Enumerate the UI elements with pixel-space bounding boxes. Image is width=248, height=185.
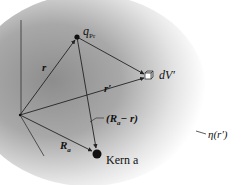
label-Ra: Ra: [60, 140, 71, 154]
charge-density-cloud: [0, 0, 206, 185]
nucleus-point: [93, 150, 102, 159]
label-r-prime: r′: [104, 83, 111, 94]
charge-point: [74, 34, 79, 39]
label-kern: Kern a: [106, 154, 138, 166]
leader-line-eta: [196, 131, 206, 134]
label-q: qPr: [83, 25, 95, 40]
label-r: r: [42, 62, 46, 73]
label-dV: dV′: [159, 69, 175, 81]
origin-point: [19, 114, 21, 116]
label-eta: η(r′): [208, 129, 227, 140]
label-Ra-minus-r: (Ra− r): [106, 113, 138, 127]
